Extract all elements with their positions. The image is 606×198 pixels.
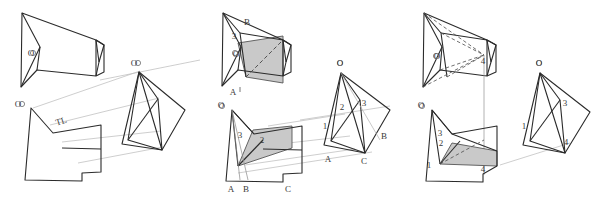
p3-label-r-o: O	[536, 58, 543, 68]
p3-tetra-face	[530, 73, 565, 153]
p3-proj-1	[500, 143, 570, 165]
p3-dash-5	[440, 55, 484, 70]
p3-label-r-4: 4	[564, 137, 569, 147]
p1-tetra-face-a	[128, 72, 162, 150]
technical-drawing: O O TL O	[0, 0, 606, 198]
p1-proj-3	[62, 131, 161, 142]
p3-label-bl-o: O	[418, 100, 425, 110]
panel-right: O 4 O 3 2 1 4	[418, 13, 590, 182]
p3-dash-3	[424, 13, 484, 55]
p2-label-top-b: B	[244, 17, 250, 27]
figure-canvas: O O TL O	[0, 0, 606, 198]
p2-top-group: O B 3 A	[222, 13, 291, 97]
p1-tetra-outer	[122, 72, 185, 150]
p3-label-bl-4: 4	[481, 164, 486, 174]
p2-tetra-outer	[324, 73, 390, 153]
p1-bottom-inner-edge	[62, 148, 101, 149]
p2-label-r-2: 2	[340, 102, 345, 112]
p3-top-inner-a	[424, 13, 447, 77]
p2-label-bl-a: A	[228, 184, 235, 194]
p3-label-r-3: 3	[563, 98, 568, 108]
p2-label-r-c: C	[361, 156, 367, 166]
p1-proj-1	[33, 71, 140, 108]
p1-label-tl: TL	[54, 115, 68, 128]
p3-thin-projectors	[500, 143, 570, 165]
p2-bottom-fine-lines	[232, 110, 248, 180]
p3-label-top-o: O	[434, 51, 441, 61]
p1-right-tetra	[122, 72, 185, 150]
p3-label-bl-1: 1	[427, 160, 432, 170]
p2-label-r-o: O	[337, 58, 344, 68]
p3-label-r-1: 1	[522, 121, 527, 131]
p1-label-o-bottom: O	[15, 99, 22, 109]
p1-label-o-top: O	[28, 48, 35, 58]
p2-label-r-a: A	[325, 154, 332, 164]
p2-right-tetra: O 2 3 1 A B C	[323, 58, 390, 166]
p3-label-bl-3: 3	[438, 128, 443, 138]
p1-proj-4	[78, 147, 163, 163]
p3-bottom-group: O 3 2 1 4	[418, 100, 497, 182]
p2-label-bl-c: C	[285, 184, 291, 194]
p3-right-tetra: O 3 1 4	[522, 58, 590, 153]
panel-middle: O B 3 A	[218, 13, 390, 194]
p2-label-r-3: 3	[362, 98, 367, 108]
p2-bottom-edge-b	[232, 110, 254, 134]
p2-label-top-a: A	[230, 87, 237, 97]
p2-label-bl-b: B	[243, 184, 249, 194]
panel-left: O O TL O	[15, 13, 200, 181]
p1-label-o-right: O	[131, 58, 138, 68]
p3-top-dashed-rays	[423, 13, 484, 87]
p3-label-bl-2: 2	[439, 138, 444, 148]
p2-label-top-3: 3	[232, 31, 237, 41]
p2-tetra-fine	[341, 73, 380, 140]
p3-dash-4	[423, 55, 484, 87]
p3-tetra-outer	[523, 73, 590, 153]
p2-label-bl-o: O	[218, 100, 225, 110]
p3-label-top-4: 4	[481, 56, 486, 66]
p2-top-shaded-plane	[238, 36, 283, 83]
p2-label-r-b: B	[381, 131, 387, 141]
p3-tetra-edge-c	[530, 100, 560, 141]
p1-proj-5	[100, 60, 200, 80]
p3-top-right-diag	[487, 40, 491, 62]
p1-thin-projectors	[33, 60, 200, 163]
p2-bottom-group: O 3 2 A B C	[218, 100, 302, 194]
p2-proj-5	[300, 106, 390, 120]
p2-label-top-o: O	[233, 49, 240, 59]
p2-label-bl-2: 2	[260, 135, 265, 145]
p2-label-bl-3: 3	[238, 130, 243, 140]
p2-label-r-1: 1	[323, 121, 328, 131]
